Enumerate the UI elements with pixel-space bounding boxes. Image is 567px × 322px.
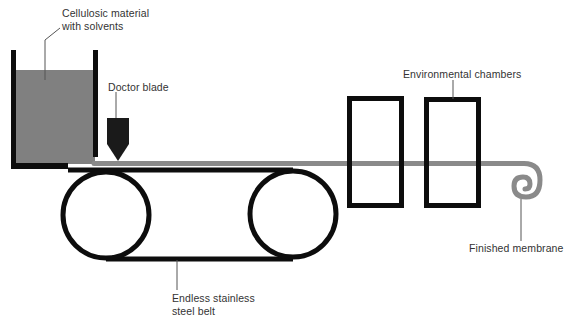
membrane-label: Finished membrane [469,242,564,255]
chamber-2 [427,100,479,206]
doctor-blade [107,118,129,161]
belt-label: Endless stainless steel belt [172,292,255,318]
steel-belt [63,170,336,259]
belt-label-line-1: Endless stainless [172,292,255,305]
doctor-blade-label: Doctor blade [108,81,169,94]
tank-label: Cellulosic material with solvents [62,7,149,33]
solution-fill [15,70,95,164]
tank-label-line-2: with solvents [62,20,149,33]
left-roller [63,172,149,258]
right-roller [250,171,336,257]
tank-label-line-1: Cellulosic material [62,7,149,20]
chamber-1 [350,99,402,206]
chambers-label: Environmental chambers [403,68,521,81]
environmental-chambers [350,99,479,206]
casting-diagram [0,0,567,322]
belt-label-line-2: steel belt [172,305,255,318]
